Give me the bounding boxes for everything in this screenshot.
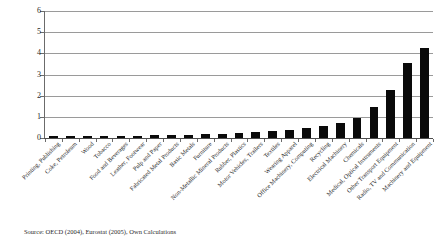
bar bbox=[403, 63, 412, 138]
gridline-3 bbox=[45, 75, 433, 76]
bar bbox=[370, 107, 379, 138]
gridline-6 bbox=[45, 11, 433, 12]
bar bbox=[285, 130, 294, 138]
y-tick-label-6: 6 bbox=[37, 7, 41, 15]
y-tick-label-2: 2 bbox=[37, 92, 41, 100]
y-tick-label-4: 4 bbox=[37, 49, 41, 57]
gridline-2 bbox=[45, 96, 433, 97]
source-note: Source: OECD (2004), Eurostat (2005), Ow… bbox=[24, 228, 176, 236]
bar bbox=[386, 90, 395, 138]
y-tick-label-5: 5 bbox=[37, 28, 41, 36]
plot-area bbox=[45, 11, 433, 138]
gridline-4 bbox=[45, 53, 433, 54]
bar bbox=[420, 48, 429, 138]
y-tick-label-1: 1 bbox=[37, 113, 41, 121]
bar bbox=[319, 126, 328, 138]
bar bbox=[353, 118, 362, 138]
x-axis-category-labels: Printing, PublishingCoke, PetroleumWoodT… bbox=[0, 140, 439, 228]
y-axis bbox=[44, 11, 45, 139]
x-category-label: Coke, Petroleum bbox=[43, 140, 78, 175]
bar bbox=[336, 123, 345, 138]
bar-chart-figure: 0123456 Printing, PublishingCoke, Petrol… bbox=[0, 0, 439, 238]
y-tick-label-3: 3 bbox=[37, 71, 41, 79]
bar bbox=[268, 131, 277, 138]
bar bbox=[302, 128, 311, 138]
gridline-5 bbox=[45, 32, 433, 33]
